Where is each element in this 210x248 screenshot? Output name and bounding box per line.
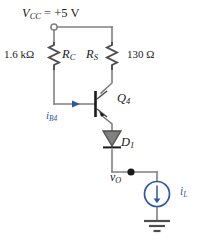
- load-current-label: iL: [180, 186, 188, 199]
- rs-name-label: RS: [86, 48, 98, 61]
- current-source-il-icon: [145, 182, 170, 207]
- vcc-terminal-icon: [51, 24, 57, 30]
- resistor-rs-icon: [107, 42, 117, 70]
- diode-d1-label: D1: [121, 136, 134, 149]
- wire-rs-to-collector: [101, 70, 112, 93]
- rs-value-label: 130 Ω: [127, 49, 154, 60]
- output-voltage-label: vO: [110, 171, 121, 185]
- schematic-canvas: [0, 0, 210, 248]
- diode-d1-icon: [103, 131, 121, 147]
- transistor-q4-label: Q4: [117, 92, 130, 105]
- rc-name-label: RC: [62, 48, 75, 61]
- output-node-dot-icon: [127, 168, 134, 175]
- rc-value-label: 1.6 kΩ: [4, 49, 34, 60]
- base-current-arrow-icon: [72, 101, 80, 108]
- transistor-q4-icon: [94, 91, 107, 117]
- circuit-schematic-figure: VCC = +5 V 1.6 kΩ RC RS 130 Ω Q4 iB4 D1 …: [0, 0, 210, 248]
- resistor-rc-icon: [49, 42, 59, 70]
- supply-voltage-label: VCC = +5 V: [22, 7, 80, 20]
- ground-icon: [144, 221, 170, 231]
- base-current-label: iB4: [46, 110, 57, 122]
